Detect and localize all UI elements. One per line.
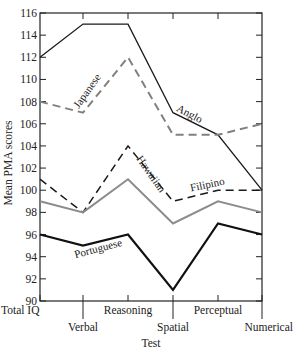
line-chart: 9092949698100102104106108110112114116Tot…: [0, 0, 294, 354]
x-category-label: Numerical: [244, 321, 293, 333]
series-label-portuguese: Portuguese: [73, 236, 123, 260]
x-category-label: Total IQ: [1, 304, 40, 316]
y-tick-label: 92: [26, 273, 38, 285]
series-label-hawaiian: Hawaiian: [134, 153, 168, 195]
y-tick-label: 110: [20, 73, 37, 85]
x-category-label: Verbal: [68, 321, 98, 333]
series-line-hawaiian: [40, 179, 262, 223]
y-axis-title: Mean PMA scores: [2, 120, 14, 205]
y-tick-label: 100: [20, 184, 38, 196]
y-tick-label: 102: [20, 162, 38, 174]
y-tick-label: 96: [26, 229, 38, 241]
y-tick-label: 94: [26, 251, 38, 263]
series-label-japanese: Japanese: [71, 71, 103, 110]
x-category-label: Perceptual: [194, 304, 243, 317]
y-tick-label: 106: [20, 118, 38, 130]
x-axis-title: Test: [142, 337, 162, 349]
series-label-anglo: Anglo: [175, 102, 205, 126]
y-tick-label: 108: [20, 96, 38, 108]
y-tick-label: 104: [20, 140, 38, 152]
x-category-label: Spatial: [157, 321, 189, 334]
y-tick-label: 98: [26, 206, 38, 218]
x-category-label: Reasoning: [104, 304, 153, 317]
y-tick-label: 112: [20, 51, 37, 63]
series-labels: AngloJapaneseFilipinoHawaiianPortuguese: [71, 71, 226, 260]
y-tick-label: 116: [20, 7, 37, 19]
y-tick-label: 114: [20, 29, 37, 41]
chart-canvas: 9092949698100102104106108110112114116Tot…: [0, 0, 294, 354]
series-line-portuguese: [40, 224, 262, 290]
plot-frame: [40, 13, 262, 301]
